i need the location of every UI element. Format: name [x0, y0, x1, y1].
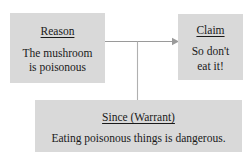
- node-reason-heading: Reason: [41, 25, 75, 37]
- node-reason-body-line-1: The mushroom: [23, 46, 93, 60]
- node-claim-heading: Claim: [196, 24, 224, 36]
- node-warrant-body: Eating poisonous things is dangerous.: [51, 131, 225, 145]
- node-warrant-heading: Since (Warrant): [102, 111, 175, 123]
- node-claim: Claim So don't eat it!: [178, 14, 243, 80]
- node-claim-body-line-1: So don't: [192, 44, 230, 58]
- toulmin-argument-diagram: Reason The mushroom is poisonous Claim S…: [0, 0, 252, 168]
- node-claim-body-line-2: eat it!: [192, 59, 230, 73]
- node-reason-body: The mushroom is poisonous: [23, 46, 93, 74]
- node-claim-body: So don't eat it!: [192, 44, 230, 72]
- node-reason: Reason The mushroom is poisonous: [10, 13, 105, 83]
- node-warrant-body-line-1: Eating poisonous things is dangerous.: [51, 131, 225, 145]
- node-reason-body-line-2: is poisonous: [23, 60, 93, 74]
- node-warrant: Since (Warrant) Eating poisonous things …: [35, 100, 242, 152]
